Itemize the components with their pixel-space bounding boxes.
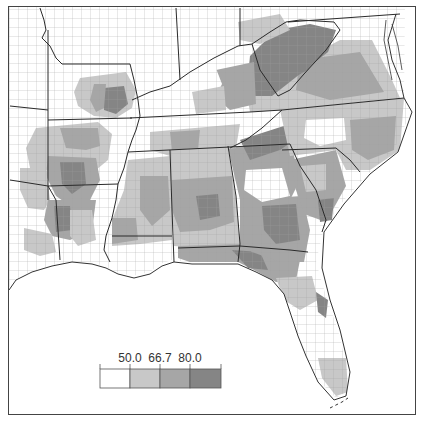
legend-box-class-4: [190, 369, 221, 388]
legend-break-1: 50.0: [118, 351, 142, 365]
legend-break-2: 66.7: [148, 351, 172, 365]
legend-box-class-2: [130, 369, 160, 388]
legend-box-class-3: [160, 369, 190, 388]
map-figure: 50.0 66.7 80.0: [0, 0, 424, 426]
legend-box-class-1: [100, 369, 130, 388]
legend-break-3: 80.0: [178, 351, 202, 365]
